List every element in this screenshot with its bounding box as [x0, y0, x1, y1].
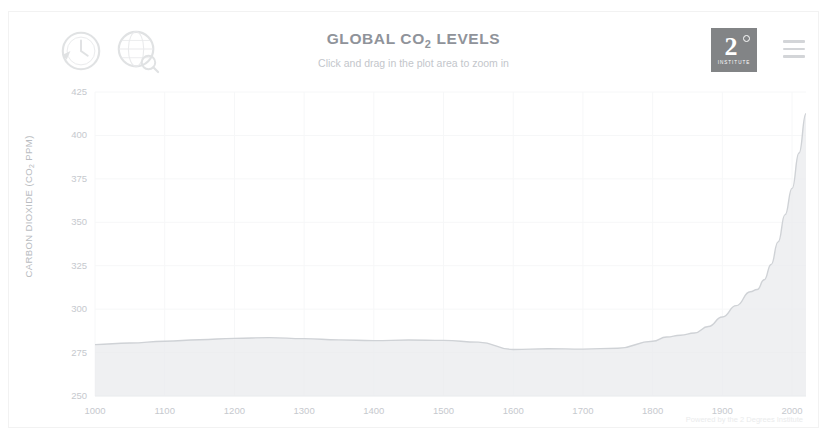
co2-chart-page: GLOBAL CO2 LEVELS Click and drag in the … [0, 0, 827, 438]
y-tick-label: 300 [51, 303, 87, 314]
x-tick-label: 1700 [558, 405, 608, 416]
x-tick-label: 1800 [628, 405, 678, 416]
y-tick-label: 275 [51, 347, 87, 358]
series-line [95, 114, 806, 350]
y-tick-label: 400 [51, 129, 87, 140]
x-tick-label: 1400 [349, 405, 399, 416]
y-tick-label: 375 [51, 173, 87, 184]
chart-credit[interactable]: Powered by the 2 Degrees Institute [686, 415, 803, 424]
y-tick-label: 425 [51, 86, 87, 97]
x-tick-label: 1000 [70, 405, 120, 416]
x-tick-label: 1500 [419, 405, 469, 416]
x-tick-label: 1200 [209, 405, 259, 416]
y-tick-label: 350 [51, 216, 87, 227]
x-tick-label: 1600 [488, 405, 538, 416]
x-tick-label: 1300 [279, 405, 329, 416]
plot-area[interactable]: CARBON DIOXIDE (CO2 PPM) 250275300325350… [0, 0, 827, 438]
chart-canvas[interactable] [0, 0, 827, 438]
y-tick-label: 250 [51, 390, 87, 401]
y-tick-label: 325 [51, 260, 87, 271]
x-tick-label: 1100 [140, 405, 190, 416]
series-area-fill [95, 114, 806, 396]
